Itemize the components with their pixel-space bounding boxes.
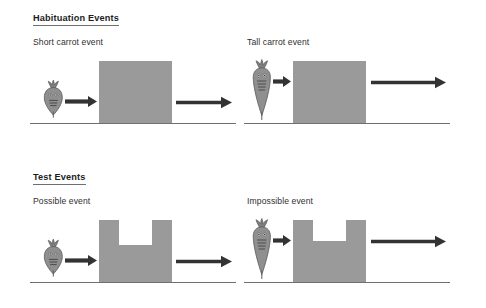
large-right-arrow (371, 77, 446, 89)
short-carrot-figure (44, 239, 62, 276)
scene-short-carrot-event (26, 54, 240, 134)
small-right-arrow (273, 235, 291, 246)
screen-rectangle (293, 61, 366, 123)
panel-caption-short-carrot: Short carrot event (33, 37, 103, 47)
large-right-arrow (176, 256, 232, 268)
small-right-arrow (65, 255, 97, 266)
small-right-arrow (65, 96, 97, 107)
panel-caption-impossible: Impossible event (247, 196, 313, 206)
screen-notched-rectangle (293, 220, 366, 282)
scene-tall-carrot-event (240, 54, 454, 134)
panel-caption-tall-carrot: Tall carrot event (247, 37, 309, 47)
section-heading-test: Test Events (33, 172, 86, 185)
short-carrot-figure (44, 80, 62, 117)
scene-possible-event (26, 213, 240, 293)
large-right-arrow (176, 97, 232, 109)
small-right-arrow (273, 76, 291, 87)
section-heading-habituation: Habituation Events (33, 13, 119, 26)
figure-root: Habituation Events Short carrot event Ta… (0, 0, 486, 308)
tall-carrot-figure (253, 60, 270, 120)
tall-carrot-figure (253, 219, 270, 279)
screen-notched-rectangle (99, 220, 172, 282)
scene-impossible-event (240, 213, 454, 293)
panel-caption-possible: Possible event (33, 196, 90, 206)
screen-rectangle (99, 61, 172, 123)
large-right-arrow (371, 236, 446, 248)
